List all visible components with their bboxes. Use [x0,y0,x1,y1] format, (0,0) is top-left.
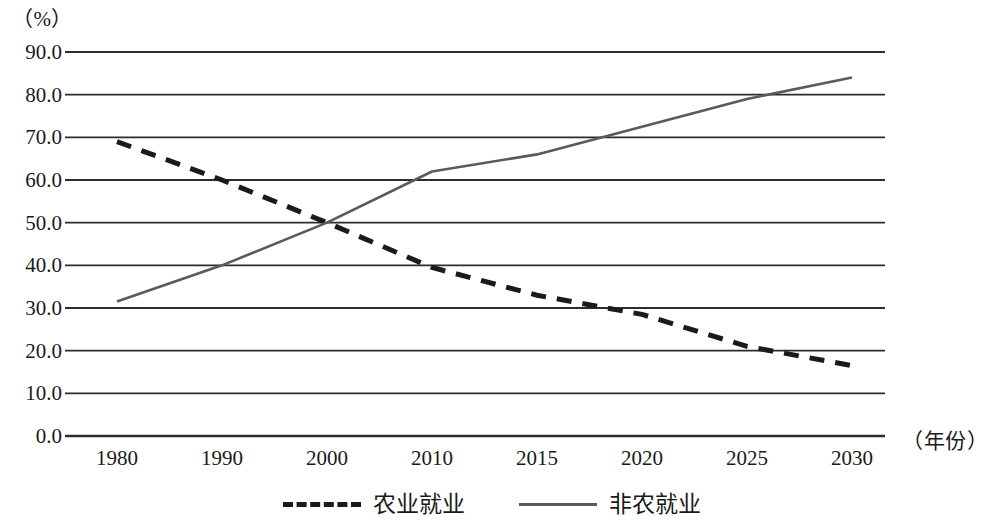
y-axis-tick-label: 30.0 [0,298,62,319]
legend-item[interactable]: 非农就业 [519,493,701,516]
y-axis-tick-label: 20.0 [0,340,62,361]
gridlines [65,52,885,436]
x-axis-tick-label: 2015 [516,448,558,469]
x-axis-tick-label: 2030 [831,448,873,469]
series-line-non-agriculture [117,78,852,302]
chart-legend: 农业就业非农就业 [0,487,983,521]
y-axis-tick-labels: 0.010.020.030.040.050.060.070.080.090.0 [0,0,62,521]
x-axis-tick-label: 2020 [621,448,663,469]
legend-swatch-dashed-line-icon [283,501,361,507]
x-axis-tick-label: 1980 [96,448,138,469]
legend-label: 非农就业 [609,493,701,516]
y-axis-tick-label: 0.0 [0,426,62,447]
x-axis-tick-label: 1990 [201,448,243,469]
x-axis-tick-label: 2025 [726,448,768,469]
y-axis-tick-label: 60.0 [0,170,62,191]
x-axis-tick-label: 2000 [306,448,348,469]
series-lines [117,78,852,366]
y-axis-tick-label: 40.0 [0,255,62,276]
series-line-agriculture [117,142,852,366]
line-chart: （%） 0.010.020.030.040.050.060.070.080.09… [0,0,983,521]
x-axis-tick-labels: 19801990200020102015202020252030 [0,448,983,478]
y-axis-tick-label: 80.0 [0,84,62,105]
y-axis-tick-label: 10.0 [0,383,62,404]
y-axis-tick-label: 50.0 [0,212,62,233]
legend-swatch-solid-line-icon [519,501,597,507]
y-axis-tick-label: 90.0 [0,42,62,63]
plot-svg [65,52,885,436]
x-axis-unit-label: （年份） [902,424,983,454]
y-axis-tick-label: 70.0 [0,127,62,148]
legend-item[interactable]: 农业就业 [283,493,465,516]
plot-area [65,52,885,436]
legend-label: 农业就业 [373,493,465,516]
x-axis-tick-label: 2010 [411,448,453,469]
